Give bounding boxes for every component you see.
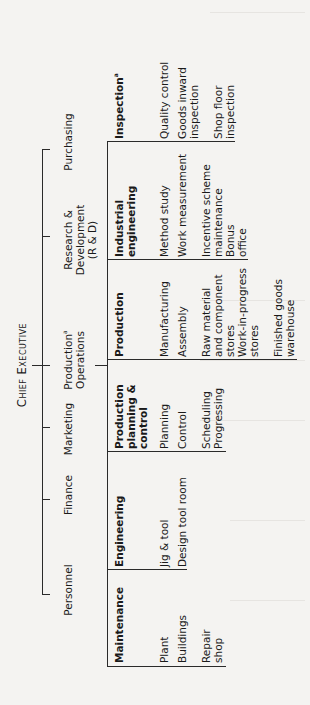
group-item: Plant	[158, 637, 170, 663]
group-rail	[107, 359, 297, 360]
group-item: stores	[248, 325, 260, 357]
group-item: Jig & tool	[158, 520, 170, 567]
group-rail	[107, 666, 226, 667]
group-item: Manufacturing	[158, 281, 170, 357]
tick-finance	[42, 499, 50, 500]
group-rail	[107, 259, 248, 260]
tick-marketing	[42, 427, 50, 428]
production-connector	[95, 365, 107, 366]
group-item: Bonus	[224, 225, 236, 257]
group-item: Control	[176, 411, 188, 449]
group-item: warehouse	[284, 300, 296, 357]
group-item: inspection	[224, 85, 236, 139]
group-rail	[107, 569, 187, 570]
group-item: and component	[212, 275, 224, 358]
group-item: inspection	[188, 85, 200, 139]
group-item: office	[236, 228, 248, 257]
group-head: Production	[113, 292, 125, 357]
group-item: Method study	[158, 185, 170, 257]
group-rail	[107, 451, 226, 452]
tick-purchasing	[42, 149, 50, 150]
group-item: Incentive scheme	[200, 164, 212, 257]
group-item: Scheduling	[200, 391, 212, 449]
group-item: Raw material	[200, 288, 212, 357]
dept-rnd: Research &Development(R & D)	[62, 195, 98, 285]
group-item: stores	[224, 325, 236, 357]
chief-executive-title: Chief Executive	[16, 305, 28, 425]
dept-finance: Finance	[62, 465, 74, 525]
group-item: Repair	[200, 629, 212, 663]
group-item: Work-in-progress	[236, 268, 248, 357]
group-item: shop	[212, 638, 224, 663]
group-item: Finished goods	[272, 279, 284, 357]
tick-personnel	[42, 594, 50, 595]
dept-personnel: Personnel	[62, 555, 74, 625]
sub-department-bus	[107, 141, 108, 667]
group-item: Planning	[158, 404, 170, 449]
group-item: Buildings	[176, 615, 188, 663]
group-rail	[107, 141, 235, 142]
group-item: Work measurement	[176, 154, 188, 257]
dept-purchasing: Purchasing	[62, 107, 74, 177]
org-chart: Chief Executive Personnel Finance Market…	[0, 0, 310, 705]
dept-production: ProductionaOperations	[62, 320, 86, 400]
group-item: Quality control	[158, 62, 170, 139]
tick-rnd	[42, 236, 50, 237]
group-head: Inspectiona	[113, 73, 125, 139]
tick-production	[42, 365, 50, 366]
group-item: Design tool room	[176, 477, 188, 567]
group-item: Goods inward	[176, 67, 188, 139]
group-head: Engineering	[113, 496, 125, 567]
group-head: Maintenance	[113, 587, 125, 663]
group-item: maintenance	[212, 188, 224, 257]
dept-marketing: Marketing	[62, 399, 74, 459]
group-item: Progressing	[212, 388, 224, 449]
group-head: Productionplanning &control	[113, 384, 149, 449]
group-head: Industrialengineering	[113, 186, 137, 257]
department-bus	[42, 149, 43, 595]
group-item: Assembly	[176, 306, 188, 357]
group-item: Shop floor	[212, 85, 224, 139]
ceo-connector	[32, 365, 42, 366]
